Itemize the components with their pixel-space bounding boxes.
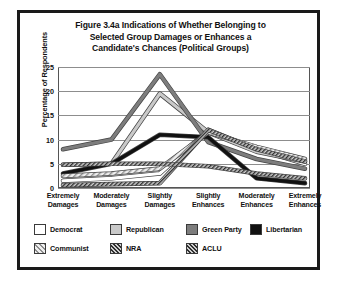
y-axis-tick-label: 15 — [46, 111, 54, 120]
x-axis-tick-label: ExtremelyDamages — [47, 192, 80, 211]
legend-item[interactable]: Green Party — [186, 224, 242, 235]
legend-label: Communist — [50, 244, 89, 253]
legend-label: Democrat — [50, 225, 82, 234]
x-axis-tick-label-line: Damages — [93, 201, 129, 210]
figure-container: Figure 3.4a Indications of Whether Belon… — [17, 10, 320, 270]
legend-item[interactable]: NRA — [110, 243, 141, 254]
chart-title-line-3: Candidate's Chances (Political Groups) — [28, 43, 313, 55]
series-lines — [58, 67, 310, 188]
x-axis-labels: ExtremelyDamagesModeratelyDamagesSlightl… — [58, 192, 310, 216]
x-axis-tick-label: ModeratelyDamages — [93, 192, 129, 211]
legend-swatch — [186, 243, 198, 254]
legend-label: Libertarian — [266, 225, 302, 234]
chart-legend: DemocratRepublicanGreen PartyLibertarian… — [34, 224, 309, 264]
y-axis-tick-label: 25 — [46, 63, 54, 72]
legend-label: NRA — [126, 244, 141, 253]
y-axis-tick-label: 20 — [46, 87, 54, 96]
legend-item[interactable]: Libertarian — [250, 224, 302, 235]
legend-label: ACLU — [202, 244, 222, 253]
x-axis-tick-label-line: Slightly — [192, 192, 224, 201]
x-axis-tick-label: ModeratelyEnhances — [239, 192, 275, 211]
legend-label: Green Party — [202, 225, 242, 234]
legend-swatch — [250, 224, 262, 235]
x-axis-tick-label: ExtremelyEnhances — [289, 192, 322, 211]
x-axis-tick-label: SlightlyDamages — [145, 192, 176, 211]
x-axis-tick-label-line: Damages — [47, 201, 80, 210]
x-axis-tick-label-line: Extremely — [289, 192, 322, 201]
x-axis-tick-label: SlightlyEnhances — [192, 192, 224, 211]
legend-swatch — [34, 243, 46, 254]
x-axis-tick-label-line: Extremely — [47, 192, 80, 201]
x-axis-tick-label-line: Damages — [145, 201, 176, 210]
legend-swatch — [186, 224, 198, 235]
x-axis-tick-label-line: Moderately — [239, 192, 275, 201]
y-axis-tick-label: 10 — [46, 135, 54, 144]
legend-item[interactable]: Communist — [34, 243, 89, 254]
x-axis-tick-label-line: Enhances — [289, 201, 322, 210]
x-axis-tick-label-line: Enhances — [192, 201, 224, 210]
gridline — [58, 188, 310, 189]
x-axis-tick-label-line: Enhances — [239, 201, 275, 210]
plot-area: 0510152025 — [58, 67, 310, 188]
chart-title: Figure 3.4a Indications of Whether Belon… — [28, 20, 313, 55]
chart-title-line-1: Figure 3.4a Indications of Whether Belon… — [28, 20, 313, 32]
legend-swatch — [34, 224, 46, 235]
x-axis-tick-label-line: Moderately — [93, 192, 129, 201]
legend-swatch — [110, 224, 122, 235]
legend-item[interactable]: Republican — [110, 224, 164, 235]
x-axis-tick-label-line: Slightly — [145, 192, 176, 201]
legend-label: Republican — [126, 225, 164, 234]
legend-item[interactable]: ACLU — [186, 243, 222, 254]
legend-swatch — [110, 243, 122, 254]
legend-item[interactable]: Democrat — [34, 224, 82, 235]
y-axis-tick-label: 5 — [50, 159, 54, 168]
chart-title-line-2: Selected Group Damages or Enhances a — [28, 32, 313, 44]
